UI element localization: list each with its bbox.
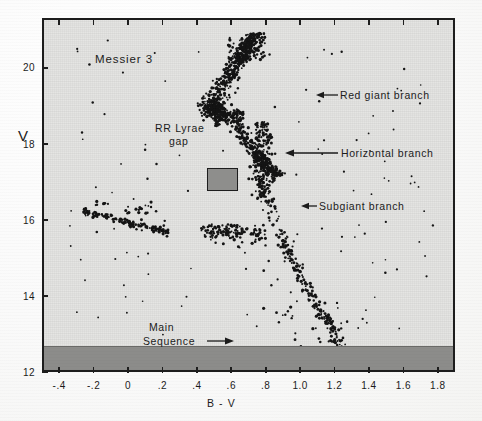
x-tick-mark-top: [334, 19, 336, 25]
x-tick-label: 1.0: [292, 380, 307, 391]
x-tick-label: .2: [158, 380, 167, 391]
main-sequence-label-line2: Sequence: [143, 335, 195, 347]
figure-page: Messier 3 RR Lyrae gap Red giant branch …: [0, 0, 482, 421]
x-tick-mark-top: [127, 19, 129, 25]
x-tick-mark: [230, 367, 232, 373]
x-tick-mark: [58, 367, 60, 373]
y-tick-label: 18: [23, 138, 35, 149]
x-tick-label: 1.6: [396, 380, 411, 391]
x-tick-mark-top: [437, 19, 439, 25]
x-tick-mark-top: [196, 19, 198, 25]
y-tick-label: 16: [23, 214, 35, 225]
y-tick-label: 12: [23, 367, 35, 378]
x-tick-mark: [334, 367, 336, 373]
x-tick-mark: [437, 367, 439, 373]
x-tick-mark: [368, 367, 370, 373]
main-sequence-label-line1: Main: [149, 321, 174, 333]
rr-lyrae-gap-label-line1: RR Lyrae: [155, 122, 205, 134]
x-tick-mark-top: [230, 19, 232, 25]
x-tick-label: .8: [261, 380, 270, 391]
x-tick-mark: [299, 367, 301, 373]
horizontal-branch-label: Horizontal branch: [341, 147, 434, 159]
y-tick-label: 14: [23, 290, 35, 301]
star-scatter-layer: [44, 20, 453, 371]
y-tick-mark: [42, 219, 48, 221]
rr-lyrae-gap-box: [207, 168, 238, 191]
x-tick-mark-top: [162, 19, 164, 25]
plot-area: [42, 18, 455, 372]
x-tick-mark: [196, 367, 198, 373]
x-tick-label: 0: [125, 380, 131, 391]
y-tick-mark: [42, 295, 48, 297]
x-tick-label: .4: [192, 380, 201, 391]
subgiant-branch-label: Subgiant branch: [319, 200, 404, 212]
x-tick-mark: [162, 367, 164, 373]
y-tick-mark: [42, 372, 48, 374]
x-tick-mark: [127, 367, 129, 373]
x-tick-mark: [93, 367, 95, 373]
x-tick-label: 1.8: [430, 380, 445, 391]
x-tick-mark-top: [299, 19, 301, 25]
y-tick-mark: [42, 143, 48, 145]
x-tick-mark-top: [403, 19, 405, 25]
x-tick-label: -.2: [87, 380, 100, 391]
x-tick-label: -.4: [53, 380, 66, 391]
obscured-band: [44, 346, 453, 370]
x-tick-label: 1.2: [327, 380, 342, 391]
x-axis-label: B - V: [207, 397, 236, 409]
rr-lyrae-gap-label-line2: gap: [169, 135, 189, 147]
x-tick-mark-top: [265, 19, 267, 25]
y-tick-label: 20: [23, 62, 35, 73]
y-tick-mark: [42, 67, 48, 69]
x-tick-label: .6: [227, 380, 236, 391]
x-tick-mark-top: [58, 19, 60, 25]
x-tick-label: 1.4: [361, 380, 376, 391]
x-tick-mark: [265, 367, 267, 373]
x-tick-mark-top: [368, 19, 370, 25]
x-tick-mark: [403, 367, 405, 373]
x-tick-mark-top: [93, 19, 95, 25]
object-name-label: Messier 3: [95, 53, 153, 65]
red-giant-branch-label: Red giant branch: [340, 89, 430, 101]
